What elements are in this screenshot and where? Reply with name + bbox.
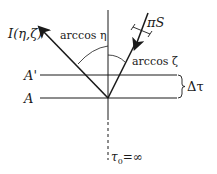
flux-arrow-lower <box>108 44 135 98</box>
level-a-prime-label: A' <box>23 68 37 83</box>
tau-zero-label: τ0=∞ <box>111 150 143 166</box>
delta-tau-brace <box>178 75 185 98</box>
arccos-zeta-label: arccos ζ <box>132 55 178 68</box>
intensity-label: I(η,ζ) <box>7 26 42 41</box>
delta-tau-label: Δτ <box>187 79 204 94</box>
tau-value: =∞ <box>123 150 143 164</box>
arccos-eta-label: arccos η <box>60 29 107 42</box>
level-a-label: A <box>23 91 33 106</box>
arccos-zeta-arc <box>108 55 125 62</box>
radiative-transfer-diagram: I(η,ζ) arccos η πS arccos ζ A' A Δτ τ0=∞ <box>0 0 217 174</box>
flux-label: πS <box>146 15 165 30</box>
arccos-eta-arc <box>78 46 108 64</box>
flux-beam-tick-end1 <box>131 24 135 30</box>
flux-beam-tick-end2 <box>148 31 152 37</box>
